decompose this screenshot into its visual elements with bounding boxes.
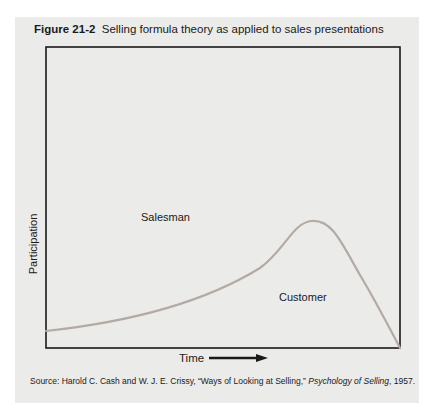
y-axis-label: Participation <box>27 199 39 289</box>
plot-frame <box>46 47 400 348</box>
source-prefix: Source: Harold C. Cash and W. J. E. Cris… <box>30 376 308 386</box>
chart-plot <box>0 0 434 419</box>
source-citation: Source: Harold C. Cash and W. J. E. Cris… <box>30 376 415 386</box>
x-axis-label: Time <box>179 352 204 364</box>
participation-curve <box>46 221 400 348</box>
annotation-salesman: Salesman <box>141 211 190 223</box>
source-suffix: , 1957. <box>389 376 415 386</box>
annotation-customer: Customer <box>279 291 327 303</box>
time-arrow-icon <box>209 354 268 362</box>
source-publication: Psychology of Selling <box>308 376 389 386</box>
